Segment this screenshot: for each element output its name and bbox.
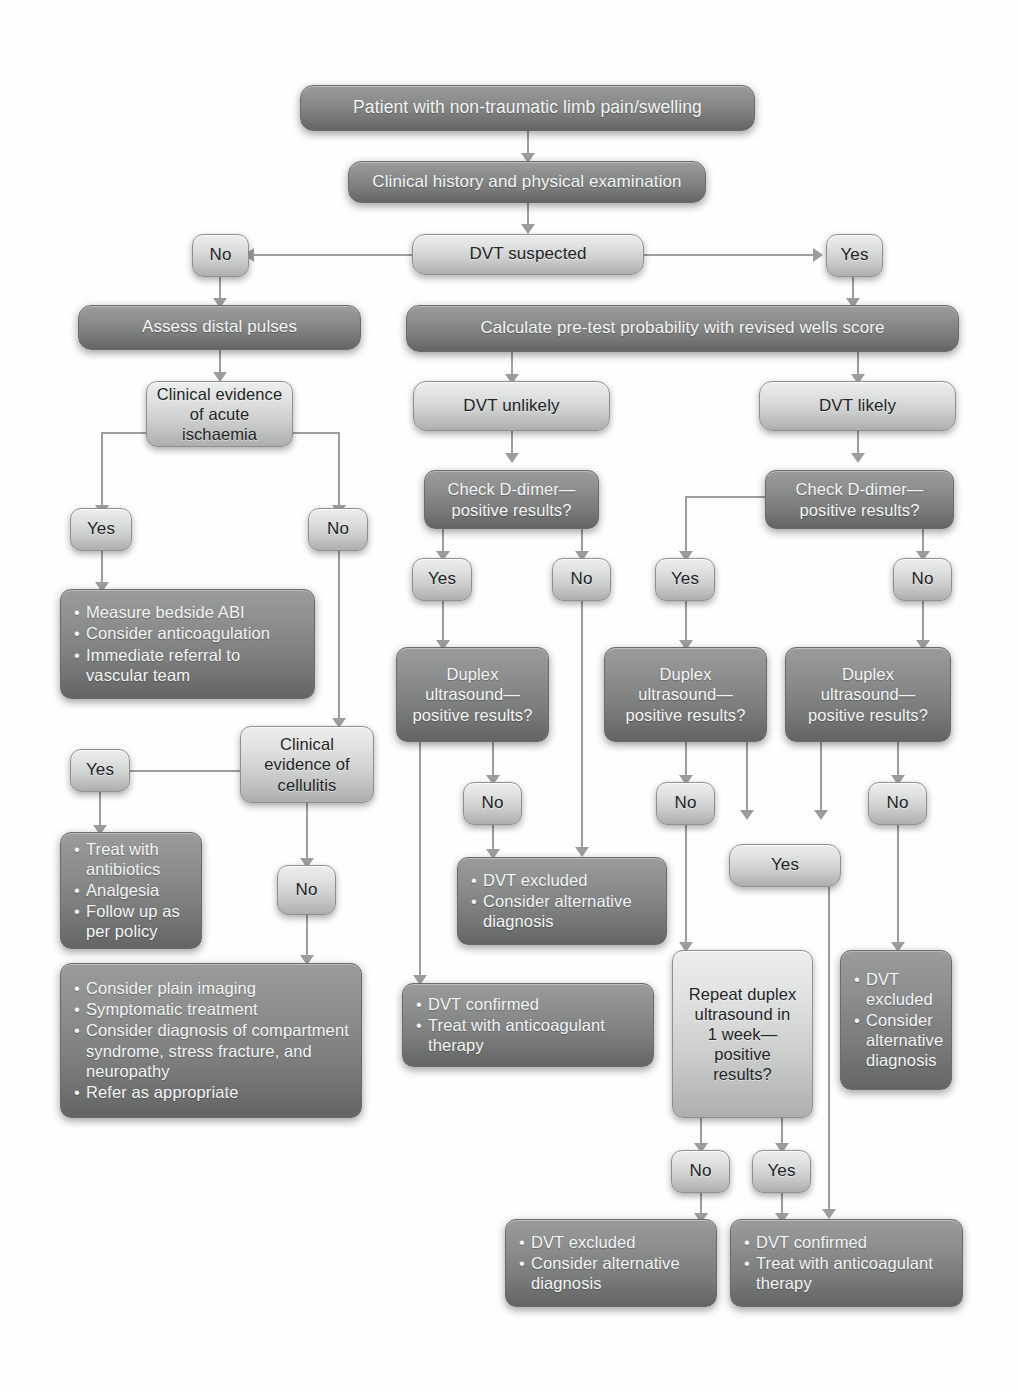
list-item: Measure bedside ABI xyxy=(86,602,302,622)
node-no-cellulitis-action[interactable]: Consider plain imaging Symptomatic treat… xyxy=(60,963,362,1118)
node-suspected-no[interactable]: No xyxy=(192,234,249,277)
node-duplex-b[interactable]: Duplex ultrasound— positive results? xyxy=(604,647,767,742)
node-start[interactable]: Patient with non-traumatic limb pain/swe… xyxy=(300,85,755,131)
node-dvt-likely-label: DVT likely xyxy=(768,396,947,417)
node-ddimer-likely-no[interactable]: No xyxy=(893,558,952,601)
arrowhead-no-excludedmid xyxy=(575,847,589,857)
node-excluded-bottom[interactable]: DVT excluded Consider alternative diagno… xyxy=(505,1219,717,1307)
node-duplex-b-no[interactable]: No xyxy=(656,782,715,825)
edge-ischno-cellulitis xyxy=(338,551,340,726)
node-dvt-likely[interactable]: DVT likely xyxy=(759,381,956,431)
list-item: DVT excluded xyxy=(483,870,654,890)
cellulitis-action-list: Treat with antibiotics Analgesia Follow … xyxy=(73,839,189,943)
list-item: Analgesia xyxy=(86,880,189,900)
node-ddimer-unlikely-no[interactable]: No xyxy=(552,558,611,601)
node-duplex-a-no-label: No xyxy=(472,793,513,814)
node-ddimer-unlikely[interactable]: Check D-dimer— positive results? xyxy=(424,470,599,529)
edge-ischaemia-no-v xyxy=(338,432,340,512)
no-cellulitis-action-list: Consider plain imaging Symptomatic treat… xyxy=(73,978,349,1103)
node-excluded-right[interactable]: DVT excluded Consider alternative diagno… xyxy=(840,950,952,1090)
node-ddimer-likely[interactable]: Check D-dimer— positive results? xyxy=(765,470,954,529)
node-suspected-yes[interactable]: Yes xyxy=(826,234,883,277)
list-item: Consider alternative diagnosis xyxy=(866,1010,943,1070)
node-cellulitis-yes-label: Yes xyxy=(79,760,121,781)
node-confirmed-mid[interactable]: DVT confirmed Treat with anticoagulant t… xyxy=(402,983,654,1067)
node-repeat-duplex-label: Repeat duplex ultrasound in 1 week— posi… xyxy=(681,984,804,1085)
node-ddimer-likely-yes[interactable]: Yes xyxy=(655,558,715,601)
node-dvt-unlikely[interactable]: DVT unlikely xyxy=(413,381,610,431)
arrowhead-duplexb-yes xyxy=(740,810,754,820)
list-item: DVT confirmed xyxy=(756,1232,950,1252)
node-start-label: Patient with non-traumatic limb pain/swe… xyxy=(309,97,746,118)
edge-no-excludedmid xyxy=(581,601,583,854)
node-ddimer-unlikely-yes-label: Yes xyxy=(421,569,463,590)
list-item: Treat with anticoagulant therapy xyxy=(756,1253,950,1293)
node-ddimer-likely-label: Check D-dimer— positive results? xyxy=(774,479,945,519)
node-ischaemia-action[interactable]: Measure bedside ABI Consider anticoagula… xyxy=(60,589,315,699)
node-excluded-mid[interactable]: DVT excluded Consider alternative diagno… xyxy=(457,857,667,945)
excluded-right-list: DVT excluded Consider alternative diagno… xyxy=(853,969,943,1072)
node-acute-ischaemia[interactable]: Clinical evidence of acute ischaemia xyxy=(146,381,293,447)
edge-duplexa-yes xyxy=(419,742,421,982)
edge-noB-repeat xyxy=(685,825,687,950)
list-item: Symptomatic treatment xyxy=(86,999,349,1019)
node-history[interactable]: Clinical history and physical examinatio… xyxy=(348,161,706,203)
node-repeat-yes-label: Yes xyxy=(761,1161,802,1182)
edge-ddl-yes-h xyxy=(685,496,770,498)
list-item: DVT excluded xyxy=(866,969,943,1009)
node-ischaemia-no[interactable]: No xyxy=(308,508,368,551)
node-ischaemia-yes[interactable]: Yes xyxy=(70,508,132,551)
list-item: Treat with antibiotics xyxy=(86,839,189,879)
node-cellulitis[interactable]: Clinical evidence of cellulitis xyxy=(240,726,374,803)
node-duplex-c[interactable]: Duplex ultrasound— positive results? xyxy=(785,647,951,742)
node-duplex-c-no[interactable]: No xyxy=(868,782,927,825)
arrowhead-likely-ddimer xyxy=(851,453,865,463)
node-duplex-a[interactable]: Duplex ultrasound— positive results? xyxy=(396,647,549,742)
list-item: Consider anticoagulation xyxy=(86,623,302,643)
arrowhead-duplexc-yes xyxy=(814,810,828,820)
edge-suspected-yes xyxy=(644,254,816,256)
node-repeat-duplex[interactable]: Repeat duplex ultrasound in 1 week— posi… xyxy=(672,950,813,1118)
ischaemia-action-list: Measure bedside ABI Consider anticoagula… xyxy=(73,602,302,686)
node-cellulitis-action[interactable]: Treat with antibiotics Analgesia Follow … xyxy=(60,832,202,949)
edge-cellulitis-no xyxy=(306,803,308,865)
edge-duplexb-yes xyxy=(746,742,748,817)
list-item: Consider diagnosis of compartment syndro… xyxy=(86,1020,349,1080)
node-ischaemia-no-label: No xyxy=(317,519,359,540)
node-repeat-no[interactable]: No xyxy=(671,1150,730,1193)
node-duplex-c-label: Duplex ultrasound— positive results? xyxy=(794,664,942,724)
edge-ischaemia-yes-v xyxy=(101,432,103,512)
node-cellulitis-no[interactable]: No xyxy=(277,865,336,915)
edge-ischaemia-yes-h xyxy=(101,432,146,434)
node-suspected-yes-label: Yes xyxy=(835,245,874,266)
node-duplex-yes-merge[interactable]: Yes xyxy=(729,844,841,887)
node-cellulitis-yes[interactable]: Yes xyxy=(70,749,130,792)
node-dvt-unlikely-label: DVT unlikely xyxy=(422,396,601,417)
node-cellulitis-label: Clinical evidence of cellulitis xyxy=(249,734,365,794)
edge-suspected-no xyxy=(249,254,412,256)
arrowhead-mergeyes-confirmed xyxy=(822,1209,836,1219)
node-ddimer-unlikely-label: Check D-dimer— positive results? xyxy=(433,479,590,519)
node-assess-pulses[interactable]: Assess distal pulses xyxy=(78,305,361,350)
node-repeat-yes[interactable]: Yes xyxy=(752,1150,811,1193)
node-duplex-a-no[interactable]: No xyxy=(463,782,522,825)
confirmed-bottom-list: DVT confirmed Treat with anticoagulant t… xyxy=(743,1232,950,1294)
node-assess-pulses-label: Assess distal pulses xyxy=(87,317,352,338)
confirmed-mid-list: DVT confirmed Treat with anticoagulant t… xyxy=(415,994,641,1056)
node-confirmed-bottom[interactable]: DVT confirmed Treat with anticoagulant t… xyxy=(730,1219,963,1307)
node-wells-score[interactable]: Calculate pre-test probability with revi… xyxy=(406,305,959,352)
arrowhead-history-suspected xyxy=(521,224,535,234)
list-item: DVT excluded xyxy=(531,1232,704,1252)
node-dvt-suspected-label: DVT suspected xyxy=(421,244,635,265)
excluded-bottom-list: DVT excluded Consider alternative diagno… xyxy=(518,1232,704,1294)
node-repeat-no-label: No xyxy=(680,1161,721,1182)
list-item: Treat with anticoagulant therapy xyxy=(428,1015,641,1055)
list-item: Immediate referral to vascular team xyxy=(86,645,302,685)
flowchart-canvas: Patient with non-traumatic limb pain/swe… xyxy=(0,0,1019,1394)
node-cellulitis-no-label: No xyxy=(286,880,327,901)
node-ischaemia-yes-label: Yes xyxy=(79,519,123,540)
node-duplex-a-label: Duplex ultrasound— positive results? xyxy=(405,664,540,724)
node-dvt-suspected[interactable]: DVT suspected xyxy=(412,234,644,275)
list-item: DVT confirmed xyxy=(428,994,641,1014)
node-ddimer-unlikely-yes[interactable]: Yes xyxy=(412,558,472,601)
